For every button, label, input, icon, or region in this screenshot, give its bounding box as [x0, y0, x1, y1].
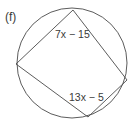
angle-label-top: 7x − 15	[55, 28, 90, 40]
part-label: (f)	[5, 10, 16, 24]
angle-label-bottom: 13x − 5	[69, 91, 104, 103]
cyclic-quadrilateral-diagram: (f) 7x − 15 13x − 5	[0, 0, 132, 127]
